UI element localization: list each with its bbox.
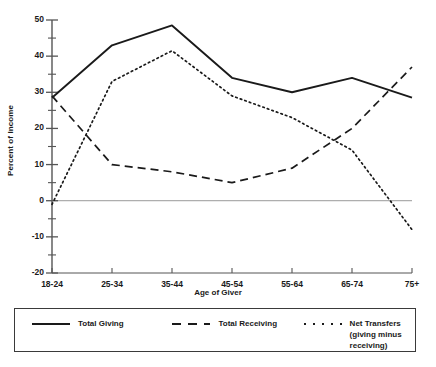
legend-label-total-receiving: Total Receiving — [218, 318, 277, 329]
chart-series-group — [52, 25, 412, 229]
x-axis-tick-label: 18-24 — [26, 279, 78, 289]
legend-item-net-transfers: Net Transfers (giving minus receiving) — [303, 318, 415, 351]
y-axis-tick-label: 50 — [18, 14, 44, 24]
series-line-total-giving — [52, 25, 412, 97]
y-axis-tick-label: -20 — [18, 267, 44, 277]
y-axis-title-text: Percent of Income — [7, 104, 16, 175]
x-axis-tick-label: 55-64 — [266, 279, 318, 289]
legend-swatch-solid-icon — [31, 319, 71, 329]
series-line-total-receiving — [52, 67, 412, 183]
x-axis-title: Age of Giver — [0, 288, 436, 297]
y-axis-tick-label: 20 — [18, 122, 44, 132]
x-axis-tick-label: 45-54 — [206, 279, 258, 289]
y-axis-tick-label: 30 — [18, 86, 44, 96]
legend-item-total-receiving: Total Receiving — [171, 318, 302, 329]
legend-item-total-giving: Total Giving — [31, 318, 171, 329]
x-axis-tick-label: 25-34 — [86, 279, 138, 289]
x-axis-ticks — [52, 268, 412, 273]
y-axis-tick-label: -10 — [18, 231, 44, 241]
legend-swatch-dotted-icon — [303, 319, 343, 329]
y-axis-tick-label: 0 — [18, 195, 44, 205]
legend-swatch-dashed-icon — [171, 319, 211, 329]
chart-legend: Total Giving Total Receiving Net Transfe… — [14, 308, 416, 352]
chart-container: Percent of Income Age of Giver 504030201… — [0, 0, 436, 367]
x-axis-tick-label: 75+ — [386, 279, 436, 289]
x-axis-tick-label: 65-74 — [326, 279, 378, 289]
y-axis-tick-label: 40 — [18, 50, 44, 60]
y-axis-tick-label: 10 — [18, 159, 44, 169]
legend-label-net-transfers: Net Transfers (giving minus receiving) — [350, 318, 415, 351]
x-axis-tick-label: 35-44 — [146, 279, 198, 289]
legend-label-total-giving: Total Giving — [78, 318, 124, 329]
